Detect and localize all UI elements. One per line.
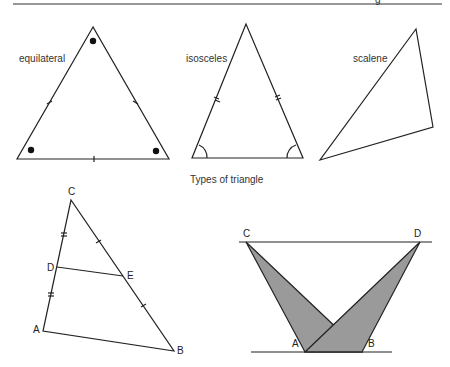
label-equilateral: equilateral — [19, 53, 65, 64]
vertex-label-b2: B — [368, 338, 375, 349]
isosceles-triangle — [192, 24, 303, 158]
vertex-label-a: A — [33, 324, 40, 335]
equilateral-triangle — [17, 27, 169, 162]
vertex-label-a2: A — [292, 338, 299, 349]
vertex-label-e: E — [127, 270, 134, 281]
midpoint-triangle — [43, 200, 174, 351]
header-partial-text: g — [375, 0, 381, 5]
angle-dot-left — [28, 147, 34, 153]
vertex-label-b: B — [177, 345, 184, 356]
figure-caption: Types of triangle — [190, 174, 263, 185]
vertex-label-d2: D — [414, 228, 421, 239]
label-isosceles: isosceles — [186, 53, 227, 64]
angle-dot-right — [153, 148, 159, 154]
shaded-triangles — [239, 242, 432, 352]
vertex-label-d: D — [47, 262, 54, 273]
vertex-label-c2: C — [243, 228, 250, 239]
vertex-label-c: C — [68, 186, 75, 197]
label-scalene: scalene — [353, 53, 387, 64]
scalene-triangle — [320, 29, 433, 160]
angle-dot-top — [90, 38, 96, 44]
